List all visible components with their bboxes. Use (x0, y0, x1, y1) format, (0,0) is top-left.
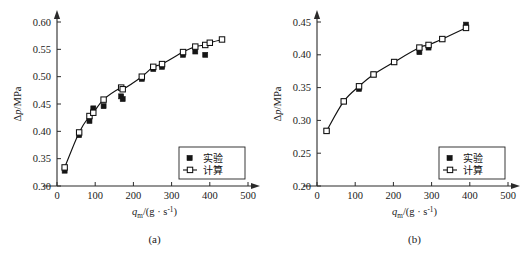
y-axis-title: Δp/MPa (272, 86, 283, 121)
x-axis (303, 183, 520, 189)
legend-experiment-label: 实验 (463, 152, 483, 164)
calculation-point (91, 110, 96, 115)
plot-svg: 0.300.350.400.450.500.550.60010020030040… (0, 0, 260, 254)
y-tick-label: 0.20 (293, 181, 311, 192)
figure-container: 0.300.350.400.450.500.550.60010020030040… (0, 0, 520, 254)
calculation-point (207, 40, 212, 45)
legend-experiment-label: 实验 (203, 152, 223, 164)
calculation-point (440, 36, 445, 41)
x-tick-label: 0 (314, 190, 319, 201)
legend-calculation-marker (187, 167, 192, 172)
calculation-point (151, 64, 156, 69)
y-tick-label: 0.55 (33, 44, 51, 55)
y-tick-label: 0.45 (33, 99, 51, 110)
x-tick-label: 500 (240, 190, 256, 201)
y-tick-label: 0.50 (33, 71, 51, 82)
chart-panel-a: 0.300.350.400.450.500.550.60010020030040… (0, 0, 260, 254)
legend[interactable]: 实验计算 (179, 147, 245, 179)
experiment-point (120, 97, 125, 102)
y-axis (54, 10, 60, 186)
plot-svg: 0.200.250.300.350.400.450100200300400500… (260, 0, 520, 254)
calculation-point (76, 130, 81, 135)
legend-calculation-label: 计算 (463, 164, 483, 176)
calculation-point (426, 42, 431, 47)
calculation-point (324, 128, 329, 133)
calculation-point (391, 59, 396, 64)
y-axis (314, 10, 320, 186)
y-axis-title: Δp/MPa (12, 86, 23, 121)
x-axis-title: qm/(g · s-1) (132, 206, 177, 220)
calculation-point (120, 87, 125, 92)
y-tick-label: 0.40 (293, 49, 311, 60)
legend[interactable]: 实验计算 (439, 147, 505, 179)
x-tick-label: 400 (202, 190, 218, 201)
y-tick-label: 0.35 (33, 153, 51, 164)
calculation-series (324, 25, 469, 133)
calculation-point (159, 61, 164, 66)
x-tick-label: 500 (500, 190, 516, 201)
calculation-point (356, 84, 361, 89)
x-tick-label: 100 (87, 190, 103, 201)
calculation-point (463, 25, 468, 30)
x-tick-group: 0100200300400500 (314, 182, 516, 201)
calculation-point (371, 72, 376, 77)
x-tick-label: 200 (386, 190, 402, 201)
y-tick-label: 0.30 (293, 115, 311, 126)
y-tick-label: 0.60 (33, 17, 51, 28)
chart-panel-b: 0.200.250.300.350.400.450100200300400500… (260, 0, 520, 254)
x-tick-label: 300 (164, 190, 180, 201)
experiment-series (324, 22, 468, 133)
legend-calculation-label: 计算 (203, 164, 223, 176)
x-tick-label: 400 (462, 190, 478, 201)
calculation-point (341, 99, 346, 104)
legend-experiment-marker (447, 155, 452, 160)
x-tick-label: 300 (424, 190, 440, 201)
panel-caption: (a) (148, 233, 161, 246)
calculation-point (139, 74, 144, 79)
x-axis (43, 183, 260, 189)
x-axis-title: qm/(g · s-1) (392, 206, 437, 220)
calculation-point (417, 45, 422, 50)
experiment-point (203, 52, 208, 57)
calculation-point (219, 37, 224, 42)
calculation-point (180, 49, 185, 54)
x-tick-label: 200 (126, 190, 142, 201)
panel-caption: (b) (408, 233, 421, 246)
y-tick-label: 0.45 (293, 17, 311, 28)
y-tick-label: 0.35 (293, 82, 311, 93)
calculation-point (101, 97, 106, 102)
legend-experiment-marker (187, 155, 192, 160)
experiment-point (101, 104, 106, 109)
x-tick-label: 0 (54, 190, 59, 201)
legend-calculation-marker (447, 167, 452, 172)
x-tick-group: 0100200300400500 (54, 182, 256, 201)
x-tick-label: 100 (347, 190, 363, 201)
y-tick-label: 0.40 (33, 126, 51, 137)
calculation-point (62, 165, 67, 170)
calculation-curve (327, 28, 466, 131)
y-tick-label: 0.25 (293, 148, 311, 159)
calculation-point (193, 44, 198, 49)
y-tick-label: 0.30 (33, 181, 51, 192)
